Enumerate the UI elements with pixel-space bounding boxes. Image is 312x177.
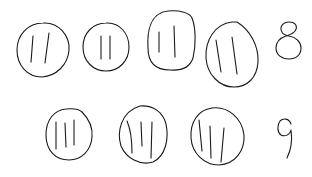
tally-mark <box>141 122 142 146</box>
circle-outline <box>83 23 129 71</box>
digit-nine <box>278 119 292 158</box>
tally-mark <box>151 122 152 158</box>
row-2 <box>46 106 292 165</box>
tally-mark <box>232 37 237 74</box>
circle-outline <box>119 106 167 163</box>
circle-outline <box>148 11 195 70</box>
tally-mark <box>127 121 132 153</box>
circle-outline <box>46 109 92 160</box>
tally-diagram: 8 9 <box>0 0 312 177</box>
drawing <box>0 0 312 177</box>
tally-mark <box>221 128 224 162</box>
tally-mark <box>45 33 49 63</box>
group-circle <box>46 109 92 160</box>
row-1 <box>17 11 301 87</box>
tally-mark <box>216 40 221 72</box>
circle-outline <box>17 23 69 77</box>
group-circle <box>119 106 167 163</box>
total-9 <box>278 119 292 158</box>
circle-outline <box>206 22 258 87</box>
group-circle <box>191 108 244 165</box>
tally-mark <box>210 126 211 158</box>
tally-mark <box>174 26 175 57</box>
tally-mark <box>31 36 33 62</box>
group-circle <box>206 22 258 87</box>
group-circle <box>83 23 129 71</box>
digit-eight <box>276 22 301 59</box>
circle-outline <box>191 108 244 165</box>
group-circle <box>148 11 195 70</box>
tally-mark <box>65 123 66 147</box>
group-circle <box>17 23 69 77</box>
total-8 <box>276 22 301 59</box>
tally-mark <box>199 120 202 151</box>
